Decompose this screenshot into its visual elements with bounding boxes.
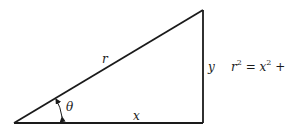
eq-x-exp: 2 — [266, 58, 271, 67]
eq-plus: + — [271, 60, 287, 74]
eq-equals: = — [242, 60, 260, 74]
angle-arc-icon — [56, 99, 62, 117]
label-r: r — [102, 53, 108, 65]
label-y: y — [208, 61, 215, 73]
label-theta: θ — [66, 101, 73, 113]
eq-r: r — [231, 60, 237, 74]
eq-r-exp: 2 — [237, 58, 242, 67]
pythagorean-equation: r2 = x2 + y2 — [231, 61, 287, 73]
label-x: x — [133, 110, 140, 122]
hypotenuse-r — [14, 10, 203, 123]
